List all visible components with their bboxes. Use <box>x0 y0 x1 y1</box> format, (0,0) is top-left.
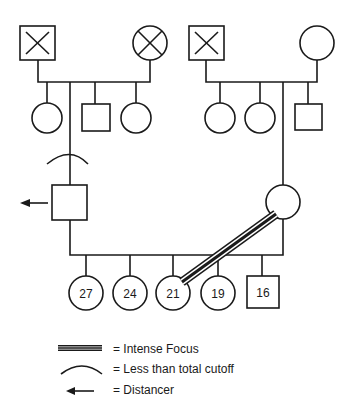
svg-text:16: 16 <box>256 286 270 300</box>
paternal-grandmother-deceased <box>133 26 167 60</box>
legend-item-distancer: = Distancer <box>58 383 318 403</box>
child-19: 19 <box>201 276 235 310</box>
maternal-aunt <box>245 103 275 133</box>
legend-label: = Less than total cutoff <box>113 362 234 376</box>
maternal-grandfather-deceased <box>189 26 224 60</box>
svg-text:27: 27 <box>79 287 93 301</box>
maternal-aunt <box>205 103 235 133</box>
paternal-grandfather-deceased <box>20 26 55 60</box>
paternal-aunt <box>32 103 62 133</box>
svg-text:21: 21 <box>166 287 180 301</box>
child-24: 24 <box>113 276 147 310</box>
maternal-marriage-line <box>206 60 317 82</box>
father <box>52 185 87 220</box>
child-27: 27 <box>69 276 103 310</box>
paternal-uncle <box>82 104 110 131</box>
legend-item-intense-focus: = Intense Focus <box>58 342 318 362</box>
maternal-uncle <box>295 104 322 130</box>
legend-item-cutoff: = Less than total cutoff <box>58 362 318 382</box>
cutoff-arc <box>47 155 88 165</box>
svg-text:24: 24 <box>123 287 137 301</box>
maternal-grandmother <box>300 26 334 60</box>
legend-label: = Distancer <box>113 383 174 397</box>
svg-text:19: 19 <box>211 287 225 301</box>
paternal-aunt <box>121 103 151 133</box>
paternal-marriage-line <box>38 60 150 82</box>
distancer-arrow <box>20 199 48 207</box>
legend-label: = Intense Focus <box>113 342 199 356</box>
child-16: 16 <box>247 276 279 308</box>
